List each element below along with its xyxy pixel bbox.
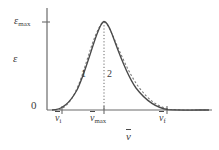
- vi-subscript: i: [59, 117, 61, 124]
- region-1-label: 1: [81, 69, 86, 79]
- v-symbol: v: [55, 112, 59, 123]
- x-tick-label-vf: vf: [159, 113, 166, 124]
- v-symbol-with-overbar: v: [126, 131, 131, 142]
- y-axis-title: ε: [13, 53, 17, 64]
- x-tick-label-vmax: vmax: [90, 113, 106, 124]
- v-symbol: v: [126, 130, 131, 142]
- epsilon-max-subscript: max: [18, 20, 30, 28]
- v-symbol: v: [159, 112, 163, 123]
- overbar: [126, 129, 132, 130]
- overbar: [90, 111, 95, 112]
- vmax-subscript: max: [94, 117, 106, 124]
- y-axis-zero-label: 0: [31, 100, 37, 111]
- x-tick-label-vi: vi: [55, 113, 61, 124]
- v-symbol-with-overbar: v: [90, 113, 94, 123]
- vf-subscript: f: [163, 117, 165, 124]
- figure-container: εmax ε 0 1 2 vi vmax vf v: [0, 0, 219, 150]
- v-symbol-with-overbar: v: [55, 113, 59, 123]
- overbar: [159, 111, 164, 112]
- x-axis-title: v: [126, 131, 131, 142]
- band-envelope-curve: [52, 22, 209, 111]
- v-symbol-with-overbar: v: [159, 113, 163, 123]
- region-2-label: 2: [107, 69, 112, 79]
- gaussian-fit-curve: [55, 22, 208, 110]
- y-axis-max-tick-label: εmax: [14, 16, 31, 28]
- v-symbol: v: [90, 112, 94, 123]
- overbar: [55, 111, 60, 112]
